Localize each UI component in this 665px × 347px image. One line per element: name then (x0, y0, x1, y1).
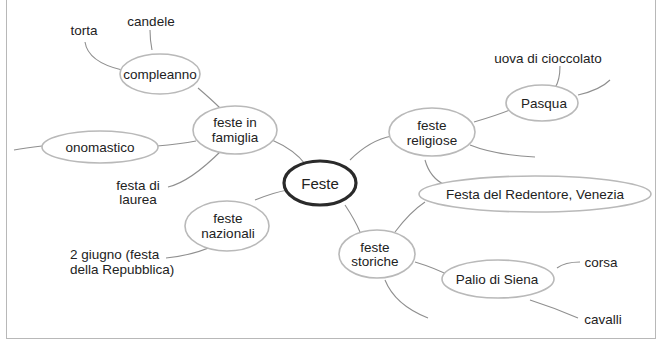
node-palio-di-siena-label: Palio di Siena (456, 272, 539, 287)
link-religiose-right (470, 145, 535, 157)
node-feste-religiose-label-1: feste (417, 118, 446, 133)
link-religiose-pasqua (474, 110, 510, 122)
leaf-candele-label: candele (127, 14, 174, 29)
link-pasqua-uova (555, 66, 560, 88)
link-compleanno-candele (150, 30, 152, 50)
node-feste-storiche-label-1: feste (360, 240, 389, 255)
leaf-torta-label: torta (70, 23, 97, 38)
node-compleanno-label: compleanno (123, 67, 197, 82)
node-pasqua-label: Pasqua (521, 96, 567, 111)
node-feste-religiose-label-2: religiose (407, 133, 457, 148)
node-feste-in-famiglia-label-1: feste in (213, 115, 257, 130)
node-feste-in-famiglia-label-2: famiglia (212, 130, 259, 145)
link-religiose-redentore (425, 160, 445, 185)
link-feste-nazionali (255, 190, 288, 200)
leaf-corsa-label: corsa (584, 255, 617, 270)
node-festa-del-redentore-label: Festa del Redentore, Venezia (446, 187, 624, 202)
link-compleanno-torta (85, 42, 122, 70)
leaf-2-giugno-label-2: della Repubblica) (70, 262, 174, 277)
link-onomastico-left (14, 146, 42, 150)
link-feste-religiose (350, 136, 392, 160)
node-feste-label: Feste (301, 176, 339, 191)
node-feste-nazionali-label-1: feste (213, 211, 242, 226)
leaf-uova-di-cioccolato-label: uova di cioccolato (494, 51, 601, 66)
link-palio-corsa (557, 262, 580, 268)
link-famiglia-onomastico (157, 141, 196, 146)
leaf-cavalli-label: cavalli (584, 312, 622, 327)
link-feste-famiglia (272, 140, 306, 165)
cropped-title-text (0, 0, 665, 3)
link-famiglia-laurea (168, 150, 222, 187)
link-pasqua-right (578, 80, 610, 95)
link-storiche-down (385, 280, 428, 318)
leaf-festa-di-laurea-label-2: laurea (119, 192, 157, 207)
leaf-festa-di-laurea-label-1: festa di (116, 178, 160, 193)
node-onomastico-label: onomastico (65, 140, 134, 155)
node-feste-storiche-label-2: storiche (351, 254, 398, 269)
leaf-2-giugno-label-1: 2 giugno (festa (70, 247, 159, 262)
link-famiglia-compleanno (198, 88, 220, 108)
link-feste-storiche (345, 205, 360, 232)
link-palio-cavalli (530, 300, 578, 318)
link-storiche-redentore (395, 202, 425, 232)
node-feste-nazionali-label-2: nazionali (201, 226, 254, 241)
